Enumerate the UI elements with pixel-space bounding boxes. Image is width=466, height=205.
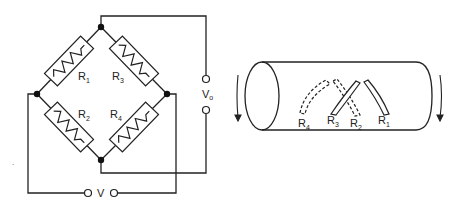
- strain-gauges: [300, 79, 389, 116]
- gauge-label-r4: R4: [298, 117, 310, 131]
- gauge-label-r1: R1: [378, 114, 390, 128]
- gauge-r4: [300, 80, 330, 114]
- svg-text:.: .: [12, 158, 14, 167]
- label-r4: R4: [110, 108, 122, 122]
- label-r2: R2: [78, 108, 90, 122]
- bridge-nodes: [34, 24, 170, 163]
- label-r1: R1: [78, 70, 90, 84]
- resistor-r2: [44, 102, 93, 152]
- label-v: V: [97, 187, 105, 199]
- diagram: R1 R3 R2 R4 Vo V . R4 R3 R2 R1: [0, 0, 466, 205]
- gauge-r1: [364, 80, 389, 115]
- shaft-cylinder: [245, 62, 432, 130]
- label-vo: Vo: [202, 88, 213, 101]
- terminals: [85, 76, 210, 197]
- label-r3: R3: [112, 70, 124, 84]
- gauge-label-r2: R2: [350, 117, 362, 131]
- gauge-label-r3: R3: [327, 114, 339, 128]
